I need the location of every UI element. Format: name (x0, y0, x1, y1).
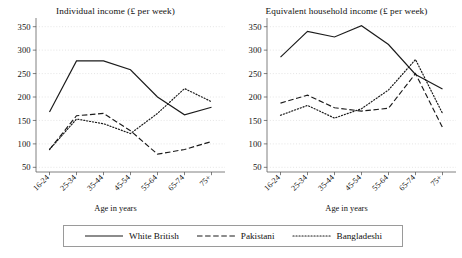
x-tick-label: 75+ (198, 173, 214, 189)
x-tick-label: 25-34 (289, 173, 309, 193)
x-tick-label: 35-44 (85, 173, 105, 193)
svg-text:300: 300 (249, 45, 262, 55)
x-tick-label: 16-24 (31, 173, 51, 193)
plot-area-right: 5010015020025030035016-2425-3435-4445-54… (231, 0, 462, 200)
legend-item-pakistani[interactable]: Pakistani (196, 231, 275, 241)
chart-svg: 5010015020025030035016-2425-3435-4445-54… (231, 0, 462, 200)
chart-panel-equivalent-household-income: Equivalent household income (£ per week)… (231, 0, 462, 215)
svg-text:100: 100 (249, 139, 262, 149)
svg-text:250: 250 (249, 69, 262, 79)
x-tick-label: 45-54 (112, 173, 132, 193)
x-axis-label-left: Age in years (0, 204, 231, 213)
x-tick-labels: 16-2425-3435-4445-5455-6465-7475+ (31, 173, 213, 193)
x-tick-label: 55-64 (139, 173, 159, 193)
x-tick-label: 25-34 (58, 173, 78, 193)
series-line-pakistani (281, 74, 443, 128)
legend-label: Pakistani (241, 231, 275, 241)
svg-text:250: 250 (18, 69, 31, 79)
chart-legend: White BritishPakistaniBangladeshi (63, 225, 403, 247)
legend-item-bangladeshi[interactable]: Bangladeshi (292, 231, 382, 241)
x-tick-label: 45-54 (343, 173, 363, 193)
svg-text:200: 200 (18, 92, 31, 102)
legend-label: Bangladeshi (337, 231, 382, 241)
legend-label: White British (129, 231, 179, 241)
svg-text:350: 350 (249, 22, 262, 32)
svg-text:150: 150 (18, 116, 31, 126)
chart-svg: 5010015020025030035016-2425-3435-4445-54… (0, 0, 231, 200)
figure-two-panel-line-charts: Individual income (£ per week) 501001502… (0, 0, 462, 258)
x-tick-label: 65-74 (166, 173, 186, 193)
series-line-bangladeshi (50, 89, 212, 150)
legend-swatch-dotted (292, 232, 332, 240)
axes: 50100150200250300350 (249, 18, 456, 175)
svg-text:50: 50 (253, 162, 262, 172)
x-axis-label-right: Age in years (231, 204, 462, 213)
svg-text:200: 200 (249, 92, 262, 102)
x-tick-label: 16-24 (262, 173, 282, 193)
svg-text:300: 300 (18, 45, 31, 55)
legend-swatch-dashed (196, 232, 236, 240)
x-tick-label: 35-44 (316, 173, 336, 193)
svg-text:50: 50 (22, 162, 31, 172)
x-tick-labels: 16-2425-3435-4445-5455-6465-7475+ (262, 173, 444, 193)
svg-text:150: 150 (249, 116, 262, 126)
plot-area-left: 5010015020025030035016-2425-3435-4445-54… (0, 0, 231, 200)
x-tick-label: 75+ (429, 173, 445, 189)
x-tick-label: 55-64 (370, 173, 390, 193)
svg-text:350: 350 (18, 22, 31, 32)
svg-text:100: 100 (18, 139, 31, 149)
x-tick-label: 65-74 (397, 173, 417, 193)
series-line-bangladeshi (281, 60, 443, 119)
axes: 50100150200250300350 (18, 18, 225, 175)
series-line-white-british (50, 61, 212, 115)
legend-item-white-british[interactable]: White British (84, 231, 179, 241)
legend-swatch-solid (84, 232, 124, 240)
gridlines (36, 27, 225, 168)
chart-panel-individual-income: Individual income (£ per week) 501001502… (0, 0, 231, 215)
